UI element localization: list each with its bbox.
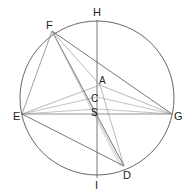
line-FG (52, 31, 172, 114)
label-I: I (95, 179, 98, 190)
label-D: D (123, 169, 131, 181)
line-FD (52, 31, 124, 166)
label-G: G (174, 110, 183, 122)
line-AD (100, 85, 124, 166)
label-A: A (99, 75, 106, 86)
label-S: S (91, 107, 98, 118)
geometry-diagram: H F A C S E G D I (0, 0, 193, 190)
label-F: F (46, 19, 53, 31)
diagram-canvas: H F A C S E G D I (0, 0, 193, 190)
line-F-D3 (52, 31, 120, 166)
line-F-D2 (52, 31, 122, 166)
label-C: C (91, 93, 98, 104)
line-FE (22, 31, 52, 114)
label-E: E (13, 110, 20, 122)
label-H: H (93, 6, 101, 18)
